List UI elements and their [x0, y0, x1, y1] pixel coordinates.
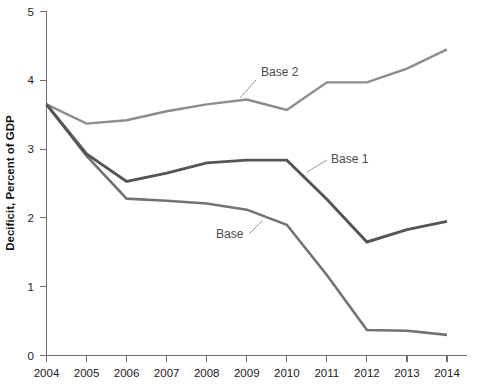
x-tick-label-2006: 2006 [114, 367, 140, 379]
series-line-base-1 [47, 104, 448, 242]
series-label-base-2: Base 2 [261, 65, 299, 79]
x-tick-label-2005: 2005 [74, 367, 100, 379]
series-line-base-2 [47, 49, 448, 123]
chart-canvas: Decificit, Percent of GDP 0 1 2 3 4 5 20… [0, 0, 477, 388]
series-label-base: Base [216, 227, 244, 241]
leader-line-base-1 [307, 160, 327, 172]
leader-line-base [249, 221, 262, 234]
x-tick-label-2013: 2013 [394, 367, 420, 379]
y-tick-label-5: 5 [28, 6, 34, 18]
deficit-line-chart: Decificit, Percent of GDP 0 1 2 3 4 5 20… [0, 0, 477, 388]
x-tick-label-2010: 2010 [274, 367, 300, 379]
y-tick-label-0: 0 [28, 350, 34, 362]
x-tick-label-2009: 2009 [234, 367, 260, 379]
y-axis-title: Decificit, Percent of GDP [4, 115, 16, 251]
series-line-base [47, 104, 448, 334]
y-tick-label-2: 2 [28, 212, 34, 224]
x-tick-label-2007: 2007 [154, 367, 180, 379]
x-tick-label-2014: 2014 [434, 367, 460, 379]
y-tick-label-3: 3 [28, 143, 34, 155]
x-tick-label-2008: 2008 [194, 367, 220, 379]
x-axis-ticks: 2004200520062007200820092010201120122013… [34, 356, 461, 379]
x-tick-label-2012: 2012 [354, 367, 380, 379]
y-tick-label-4: 4 [28, 74, 35, 86]
series-group [47, 49, 448, 335]
y-tick-label-1: 1 [28, 281, 34, 293]
y-axis-ticks: 0 1 2 3 4 5 [28, 6, 47, 362]
x-tick-label-2004: 2004 [34, 367, 60, 379]
x-tick-label-2011: 2011 [314, 367, 339, 379]
annotation-group: Base 2Base 1Base [216, 65, 369, 241]
series-label-base-1: Base 1 [331, 152, 369, 166]
leader-line-base-2 [240, 80, 256, 98]
